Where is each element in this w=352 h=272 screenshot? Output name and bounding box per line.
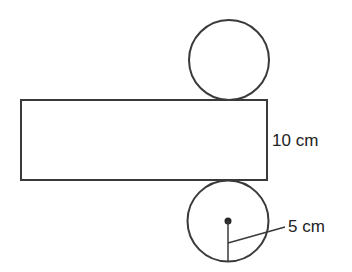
radius-label: 5 cm <box>288 217 325 236</box>
height-label: 10 cm <box>272 131 318 150</box>
lateral-surface-rectangle <box>21 100 267 180</box>
top-circle-base <box>189 20 269 100</box>
cylinder-net-diagram: 10 cm 5 cm <box>0 0 352 272</box>
radius-leader-line <box>228 227 285 243</box>
